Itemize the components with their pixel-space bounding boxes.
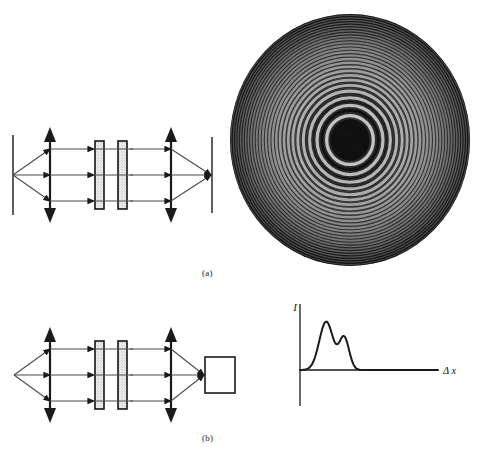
- collimated-rays-right-b: [130, 349, 171, 401]
- converging-rays-b: [171, 349, 204, 401]
- detector-box: [205, 357, 235, 393]
- y-axis-label: I: [292, 301, 298, 313]
- diverging-rays: [13, 149, 50, 201]
- converging-rays: [171, 149, 211, 201]
- fringe-disk: [222, 8, 478, 272]
- optical-diagram-a: [8, 125, 220, 225]
- diverging-rays-b: [14, 349, 50, 401]
- collimated-rays-left: [50, 149, 94, 201]
- intensity-curve: [300, 322, 438, 370]
- collimated-rays-left-b: [50, 349, 94, 401]
- optical-diagram-b: [8, 325, 238, 425]
- caption-b: (b): [202, 433, 213, 443]
- caption-a: (a): [202, 268, 213, 278]
- intensity-plot: I Δ x: [276, 298, 476, 410]
- figure-root: (a): [0, 0, 480, 462]
- circular-fringe-pattern: [222, 8, 478, 272]
- collimated-rays-right: [130, 149, 171, 201]
- x-axis-label: Δ x: [442, 365, 457, 376]
